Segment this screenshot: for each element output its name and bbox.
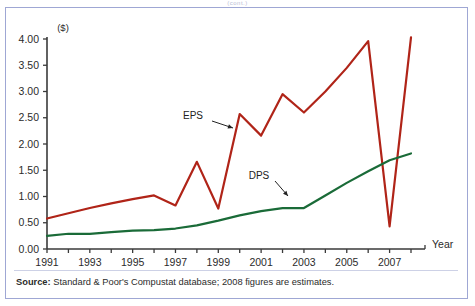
data-series-group [47, 37, 411, 235]
x-axis-tick-label: 1993 [78, 256, 102, 268]
x-axis-tick-label: 2003 [292, 256, 316, 268]
y-axis-tick-label: 4.00 [19, 33, 40, 45]
x-axis-tick-label: 1991 [35, 256, 59, 268]
y-axis-tick-label: 2.00 [19, 138, 40, 150]
y-axis-tick-label: 0.00 [19, 243, 40, 255]
figure-container: (cont.) 0.000.501.001.502.002.503.003.50… [0, 0, 475, 306]
x-axis-tick-label: 2001 [249, 256, 273, 268]
annotation-label-dps: DPS [249, 170, 270, 181]
source-text: Standard & Poor's Compustat database; 20… [51, 277, 334, 287]
source-divider [14, 270, 458, 271]
x-axis-tick-label: 2007 [378, 256, 402, 268]
annotation-arrowhead-eps [228, 124, 233, 128]
axes-group [43, 37, 425, 253]
y-axis-tick-label: 3.50 [19, 59, 40, 71]
source-note: Source: Standard & Poor's Compustat data… [16, 276, 456, 288]
x-axis-tick-label: 2005 [335, 256, 359, 268]
annotation-label-eps: EPS [183, 110, 203, 121]
y-axis-tick-label: 3.00 [19, 85, 40, 97]
x-axis-tick-label: 1997 [164, 256, 188, 268]
series-line-eps [47, 37, 411, 226]
series-annotations-group: EPSDPS [183, 110, 288, 196]
plot-area: 0.000.501.001.502.002.503.003.504.001991… [0, 0, 475, 306]
x-axis-name-label: Year [432, 238, 454, 250]
y-axis-tick-label: 2.50 [19, 111, 40, 123]
source-label: Source: [16, 277, 51, 287]
y-axis-unit-label: ($) [57, 22, 69, 33]
y-axis-tick-label: 0.50 [19, 216, 40, 228]
x-axis-tick-label: 1995 [121, 256, 145, 268]
line-chart: 0.000.501.001.502.002.503.003.504.001991… [0, 0, 475, 306]
y-axis-tick-label: 1.00 [19, 190, 40, 202]
y-axis-tick-label: 1.50 [19, 164, 40, 176]
x-axis-tick-label: 1999 [207, 256, 231, 268]
